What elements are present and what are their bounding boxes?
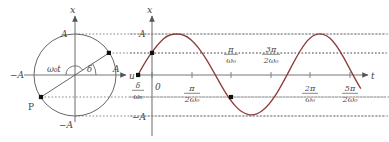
tick-label-denominator: 2ω₀ xyxy=(342,95,359,104)
tick-label-numerator: π xyxy=(188,84,195,93)
figure-svg: x u A −A −A A ω₀t δ P xyxy=(0,0,389,142)
tick-label-numerator: δ xyxy=(136,81,141,90)
wave-origin-label: 0 xyxy=(155,82,161,92)
circle-top-amplitude-label: A xyxy=(60,29,68,39)
tick-label-numerator: 5π xyxy=(345,84,356,93)
tick-label-numerator: π xyxy=(227,45,234,54)
initial-displacement-dot xyxy=(150,51,154,55)
tick-label-denominator: 2ω₀ xyxy=(184,95,201,104)
wave-amplitude-label: A xyxy=(138,29,146,39)
point-p-label: P xyxy=(28,102,34,112)
zero-crossing-dot xyxy=(136,73,140,77)
tick-label-denominator: ω₀ xyxy=(133,92,142,101)
angle-label-delta: δ xyxy=(87,64,92,74)
circle-x-axis-label: x xyxy=(70,4,76,15)
wave-negative-amplitude-label: −A xyxy=(132,112,147,122)
point-p-dot xyxy=(39,95,43,99)
moving-particle-dot xyxy=(107,51,111,55)
circle-right-amplitude-label: A xyxy=(112,64,120,74)
circle-left-amplitude-label: −A xyxy=(10,70,25,80)
wave-t-axis-label: t xyxy=(371,71,375,81)
circle-bottom-amplitude-label: −A xyxy=(59,120,74,130)
angle-label-omega0t: ω₀t xyxy=(47,64,61,74)
tick-label-numerator: 3π xyxy=(266,45,277,54)
tick-label-denominator: ω₀ xyxy=(226,56,237,65)
circle-u-axis-label: u xyxy=(129,71,135,81)
tick-label-denominator: 2ω₀ xyxy=(263,56,280,65)
tick-label-denominator: ω₀ xyxy=(305,95,316,104)
symmetric-displacement-dot xyxy=(229,95,233,99)
tick-label-numerator: 2π xyxy=(304,84,316,93)
physics-figure: x u A −A −A A ω₀t δ P xyxy=(0,0,389,142)
wave-x-axis-label: x xyxy=(147,4,153,15)
